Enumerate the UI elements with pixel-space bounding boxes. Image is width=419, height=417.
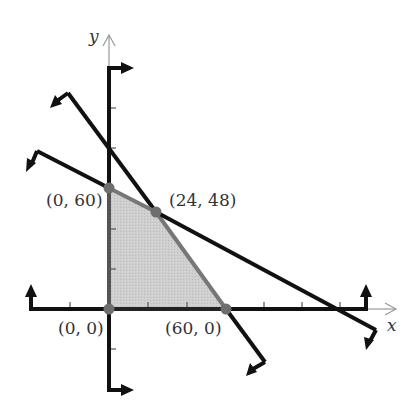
- x-axis-thin: [366, 303, 396, 315]
- vertex-dot-24-48: [151, 207, 162, 218]
- vertex-label-60-0: (60, 0): [165, 318, 222, 338]
- vertex-dot-0-60: [104, 183, 115, 194]
- x-axis-label: x: [387, 315, 397, 335]
- vertex-label-0-0: (0, 0): [58, 318, 104, 338]
- feasible-region-diagram: y x (0, 60) (24, 48) (0, 0) (60, 0): [0, 0, 419, 417]
- vertex-label-24-48: (24, 48): [169, 190, 236, 210]
- vertex-dot-60-0: [221, 304, 232, 315]
- arrow-right-icon: [121, 384, 134, 396]
- vertex-label-0-60: (0, 60): [46, 190, 103, 210]
- arrow-right-icon: [121, 62, 134, 74]
- y-axis-label: y: [88, 26, 99, 46]
- y-axis-thin: [103, 35, 115, 68]
- arrow-up-icon: [25, 284, 37, 297]
- vertex-dot-0-0: [104, 304, 115, 315]
- arrow-up-icon: [360, 284, 372, 297]
